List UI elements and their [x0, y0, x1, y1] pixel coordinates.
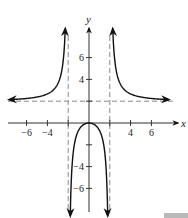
y-tick-label: 6 — [79, 52, 84, 63]
x-axis-label: x — [180, 117, 186, 129]
y-axis-label: y — [85, 13, 91, 25]
x-tick-label: 4 — [128, 127, 133, 138]
rational-function-graph: −6−446−6−446 x y — [0, 0, 188, 218]
y-tick-label: 4 — [79, 74, 84, 85]
y-tick-label: −6 — [73, 183, 84, 194]
left-branch-curve — [9, 28, 65, 99]
y-tick-label: −4 — [73, 161, 84, 172]
axes — [8, 28, 178, 212]
x-tick-label: −6 — [21, 127, 32, 138]
x-tick-label: 6 — [149, 127, 154, 138]
x-tick-label: −4 — [42, 127, 53, 138]
watermark — [164, 213, 188, 218]
right-branch-curve — [113, 28, 169, 99]
